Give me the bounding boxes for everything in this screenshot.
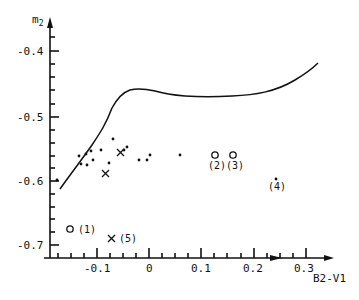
label-4: (4): [268, 181, 286, 192]
y-tick-label: -0.6: [17, 175, 44, 188]
label-1: (1): [78, 224, 96, 235]
label-2: (2): [208, 160, 226, 171]
cross-markers: [102, 149, 124, 242]
x-tick-label: 0.1: [191, 262, 211, 275]
y-tick-label: -0.4: [17, 45, 44, 58]
y-axis: [47, 17, 59, 258]
label-3: (3): [226, 160, 244, 171]
chart: -0.4 -0.5 -0.6 -0.7 -0.1 0 0.1 0.2 0.3 m…: [0, 0, 359, 300]
x-axis-arrow-icon: [324, 255, 334, 261]
x-axis-title: B2-V1: [313, 272, 346, 285]
x-axis: [44, 248, 306, 261]
y-tick-label: -0.5: [17, 111, 44, 124]
x-tick-label: 0.2: [243, 262, 263, 275]
y-axis-title: m2: [32, 13, 44, 28]
y-tick-label: -0.7: [17, 239, 44, 252]
x-tick-label: 0.3: [294, 262, 314, 275]
x-tick-label: -0.1: [84, 262, 111, 275]
data-dots: [56, 138, 278, 182]
label-5: (5): [119, 233, 137, 244]
x-tick-label: 0: [146, 262, 153, 275]
model-curve: [60, 63, 318, 189]
